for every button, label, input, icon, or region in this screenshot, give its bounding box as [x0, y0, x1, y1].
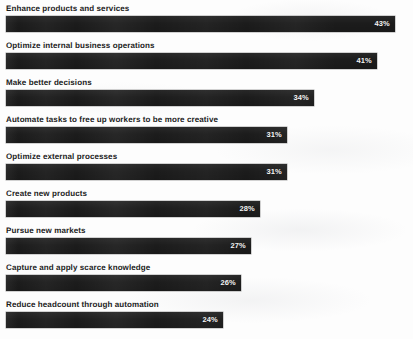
bar-track: 26%	[6, 275, 400, 291]
horizontal-bar-chart: Enhance products and services43%Optimize…	[0, 0, 413, 339]
bar-category-label: Optimize internal business operations	[6, 41, 155, 51]
bar-value-label: 26%	[220, 279, 236, 287]
bar-category-label: Enhance products and services	[6, 4, 129, 14]
bar-value-label: 41%	[356, 57, 372, 65]
bar-fill: 34%	[6, 90, 314, 106]
bar-row: Capture and apply scarce knowledge26%	[0, 263, 413, 300]
bar-track: 24%	[6, 312, 400, 328]
bar-row: Make better decisions34%	[0, 78, 413, 115]
bar-fill: 41%	[6, 53, 377, 69]
bar-value-label: 34%	[293, 94, 309, 102]
bar-fill: 43%	[6, 16, 395, 32]
bar-fill: 31%	[6, 127, 287, 143]
bar-row: Enhance products and services43%	[0, 4, 413, 41]
bar-track: 31%	[6, 164, 400, 180]
bar-category-label: Optimize external processes	[6, 152, 117, 162]
bar-track: 31%	[6, 127, 400, 143]
bar-fill: 27%	[6, 238, 251, 254]
bar-row: Optimize external processes31%	[0, 152, 413, 189]
bar-category-label: Reduce headcount through automation	[6, 300, 159, 310]
bar-value-label: 27%	[230, 242, 246, 250]
bar-category-label: Make better decisions	[6, 78, 92, 88]
bar-track: 27%	[6, 238, 400, 254]
bar-fill: 28%	[6, 201, 260, 217]
bar-row: Optimize internal business operations41%	[0, 41, 413, 78]
bar-track: 41%	[6, 53, 400, 69]
bar-value-label: 31%	[266, 168, 282, 176]
bar-row: Automate tasks to free up workers to be …	[0, 115, 413, 152]
bar-track: 43%	[6, 16, 400, 32]
bar-value-label: 43%	[374, 20, 390, 28]
bar-value-label: 28%	[239, 205, 255, 213]
bar-row: Pursue new markets27%	[0, 226, 413, 263]
bar-value-label: 31%	[266, 131, 282, 139]
bar-track: 34%	[6, 90, 400, 106]
bar-category-label: Capture and apply scarce knowledge	[6, 263, 150, 273]
bar-row: Reduce headcount through automation24%	[0, 300, 413, 337]
bar-category-label: Create new products	[6, 189, 87, 199]
bar-value-label: 24%	[202, 316, 218, 324]
bar-fill: 31%	[6, 164, 287, 180]
bar-category-label: Pursue new markets	[6, 226, 86, 236]
bar-track: 28%	[6, 201, 400, 217]
bar-row: Create new products28%	[0, 189, 413, 226]
bar-category-label: Automate tasks to free up workers to be …	[6, 115, 218, 125]
bar-fill: 26%	[6, 275, 241, 291]
bar-fill: 24%	[6, 312, 223, 328]
